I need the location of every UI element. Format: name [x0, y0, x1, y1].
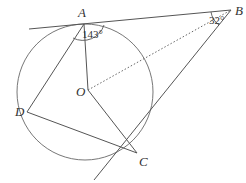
- label-a: A: [77, 5, 86, 20]
- tangent-line-bc: [94, 10, 231, 180]
- label-c: C: [139, 154, 148, 169]
- label-o: O: [76, 84, 86, 99]
- geometry-diagram: A B C D O 143° 32°: [0, 0, 246, 183]
- tangent-line-ab: [29, 10, 231, 29]
- angle-label-143: 143°: [82, 28, 103, 40]
- label-d: D: [14, 104, 25, 119]
- label-b: B: [235, 3, 243, 18]
- angle-label-32: 32°: [209, 14, 224, 26]
